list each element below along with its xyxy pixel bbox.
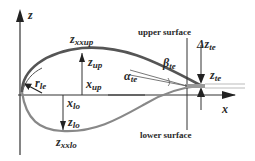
zup-arrow-icon <box>79 53 85 62</box>
beta-te-label: βte <box>162 56 176 71</box>
airfoil-diagram: z x zxxup zup xup rle xlo zlo zxxlo αte … <box>0 0 255 161</box>
lower-surface-curve <box>22 86 200 131</box>
zup-label: zup <box>87 55 103 70</box>
zlo-arrow-icon <box>60 121 66 130</box>
z-axis-arrow-icon <box>16 9 24 22</box>
zxxup-label: zxxup <box>69 32 94 47</box>
zte-label: zte <box>209 68 221 83</box>
zxxlo-label: zxxlo <box>55 135 77 150</box>
x-axis-arrow-icon <box>222 91 236 99</box>
xlo-label: xlo <box>66 96 81 111</box>
z-axis-label: z <box>27 8 33 22</box>
te-thickness <box>185 84 205 88</box>
rle-label: rle <box>35 76 46 91</box>
upper-surface-label: upper surface <box>138 27 191 37</box>
lower-surface-label: lower surface <box>140 130 192 140</box>
dzte-arrow-icon <box>197 74 205 84</box>
x-axis-label: x <box>221 102 228 116</box>
xup-label: xup <box>85 77 102 92</box>
dzte-label: Δzte <box>196 37 216 52</box>
dzte-up-arrow-icon <box>197 87 205 97</box>
zlo-label: zlo <box>67 115 80 130</box>
